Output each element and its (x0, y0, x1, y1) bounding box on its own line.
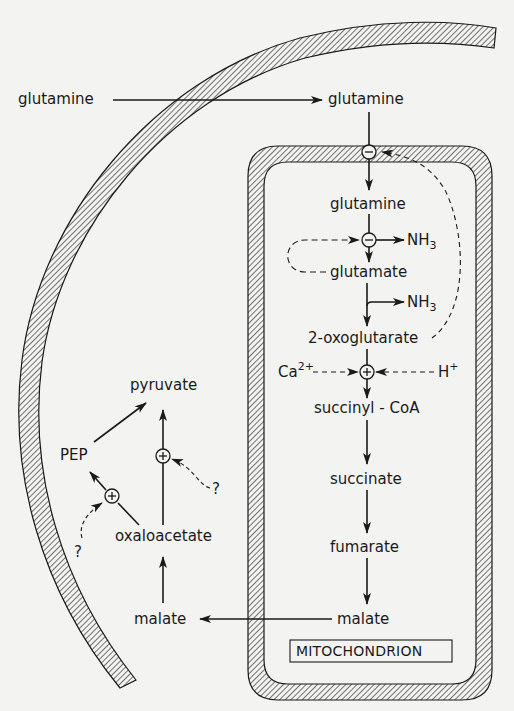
node-succinate: succinate (330, 470, 402, 488)
node-unknown-1: ? (74, 543, 82, 561)
node-unknown-2: ? (212, 480, 220, 498)
activation-dashed-unknown-1 (81, 503, 102, 538)
mitochondrion-label: MITOCHONDRION (296, 643, 422, 659)
node-glutamine-cytosol: glutamine (328, 90, 404, 108)
diagram-canvas: glutamine glutamine glutamine NH3 glutam… (0, 0, 514, 711)
arrow-nh3-release-2 (367, 302, 404, 306)
node-fumarate: fumarate (330, 538, 399, 556)
activation-symbol-pepck (105, 489, 119, 503)
node-glutamate: glutamate (330, 263, 407, 281)
arrow-pep-to-pyruvate (94, 403, 146, 442)
node-malate-cytosol: malate (134, 610, 186, 628)
activation-dashed-unknown-2 (172, 459, 210, 488)
node-nh3-1: NH3 (407, 231, 437, 252)
node-malate-matrix: malate (337, 610, 389, 628)
node-nh3-2: NH3 (407, 293, 437, 314)
node-pep: PEP (60, 446, 88, 464)
flux-line (118, 503, 139, 525)
inhibition-symbol-transport (362, 145, 376, 159)
node-glutamine-matrix: glutamine (330, 195, 406, 213)
activation-symbol-malic (156, 449, 170, 463)
node-calcium: Ca2+ (278, 360, 314, 381)
node-proton: H+ (438, 360, 459, 381)
node-pyruvate: pyruvate (130, 376, 197, 394)
node-oxaloacetate: oxaloacetate (115, 527, 212, 545)
node-glutamine-outside: glutamine (18, 90, 94, 108)
node-2-oxoglutarate: 2-oxoglutarate (308, 329, 418, 347)
arrow-to-pep (90, 472, 106, 490)
inhibition-symbol-glutaminase (362, 233, 376, 247)
activation-symbol-ogdh (360, 365, 374, 379)
node-succinyl-coa: succinyl - CoA (314, 399, 420, 417)
